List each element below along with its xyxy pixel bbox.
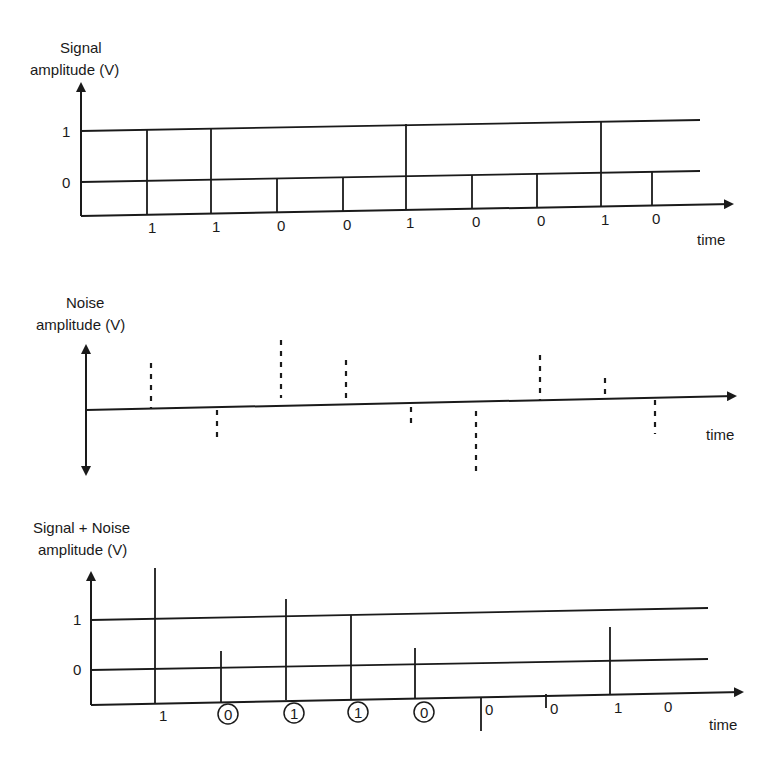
noise-ylabel-line2: amplitude (V) <box>36 316 125 333</box>
noise-ylabel-line1: Noise <box>66 294 104 311</box>
sum-level-0-label: 0 <box>73 661 81 678</box>
signal-bit-label: 0 <box>343 216 351 233</box>
signal-bit-label: 0 <box>537 212 545 229</box>
sum-bit-label: 1 <box>159 707 167 724</box>
sum-bit-label: 1 <box>290 705 298 722</box>
signal-bit-label: 1 <box>148 219 156 236</box>
sum-ylabel-line1: Signal + Noise <box>33 519 130 536</box>
sum-bit-label: 0 <box>485 701 493 718</box>
sum-level-1-label: 1 <box>73 611 81 628</box>
sum-bit-label: 1 <box>354 704 362 721</box>
signal-ylabel-line2: amplitude (V) <box>30 61 119 78</box>
signal-level-1-line <box>81 120 700 131</box>
sum-bit-label: 0 <box>550 700 558 717</box>
signal-bit-label: 1 <box>212 218 220 235</box>
signal-level-0-line <box>81 171 700 182</box>
sum-bit-label: 0 <box>224 706 232 723</box>
sum-level-1-line <box>91 608 708 620</box>
sum-ylabel-line2: amplitude (V) <box>38 541 127 558</box>
sum-xlabel: time <box>709 716 737 733</box>
signal-level-0-label: 0 <box>62 174 70 191</box>
sum-panel: Signal + Noise amplitude (V) 1 0 1 0 1 1… <box>33 519 742 733</box>
signal-bit-label: 0 <box>652 210 660 227</box>
signal-bit-label: 1 <box>601 211 609 228</box>
noise-panel: Noise amplitude (V) time <box>36 294 735 474</box>
signal-bit-label: 0 <box>277 217 285 234</box>
signal-noise-diagram: Signal amplitude (V) 1 0 1 1 0 0 1 0 0 1… <box>0 0 772 762</box>
sum-level-0-line <box>91 659 708 670</box>
signal-panel: Signal amplitude (V) 1 0 1 1 0 0 1 0 0 1… <box>30 39 732 248</box>
signal-bit-label: 1 <box>406 214 414 231</box>
signal-xlabel: time <box>697 231 725 248</box>
sum-bit-label: 1 <box>614 699 622 716</box>
signal-ylabel-line1: Signal <box>60 39 102 56</box>
sum-bit-label: 0 <box>664 698 672 715</box>
noise-xlabel: time <box>706 426 734 443</box>
sum-bit-label: 0 <box>420 704 428 721</box>
signal-bit-label: 0 <box>472 213 480 230</box>
sum-x-axis <box>91 692 742 705</box>
signal-level-1-label: 1 <box>62 123 70 140</box>
